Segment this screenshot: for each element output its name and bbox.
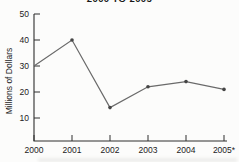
data-point bbox=[222, 88, 226, 92]
data-point bbox=[184, 80, 188, 84]
y-tick-label: 50 bbox=[20, 9, 30, 19]
y-tick-label: 30 bbox=[20, 61, 30, 71]
line-chart: 1020304050200020012002200320042005* bbox=[0, 0, 239, 162]
chart-figure: 2000 TO 2005 Millions of Dollars 1020304… bbox=[0, 0, 239, 162]
x-tick-label: 2001 bbox=[63, 145, 82, 155]
x-tick-label: 2000 bbox=[25, 145, 44, 155]
y-tick-label: 10 bbox=[20, 113, 30, 123]
axis-lines bbox=[34, 14, 227, 141]
data-point bbox=[70, 38, 74, 42]
y-tick-label: 40 bbox=[20, 35, 30, 45]
cropped-text-artifact bbox=[38, 158, 237, 162]
x-tick-label: 2002 bbox=[101, 145, 120, 155]
y-tick-label: 20 bbox=[20, 87, 30, 97]
x-tick-label: 2003 bbox=[139, 145, 158, 155]
data-point bbox=[146, 85, 150, 89]
x-tick-label: 2004 bbox=[177, 145, 196, 155]
data-point bbox=[108, 106, 112, 110]
x-tick-label: 2005* bbox=[213, 145, 236, 155]
data-line bbox=[34, 40, 224, 108]
